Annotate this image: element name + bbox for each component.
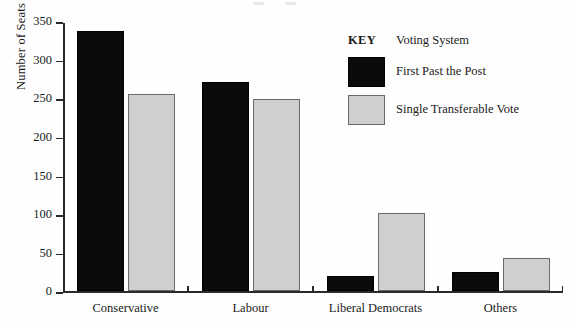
y-tick-label: 350 [33,14,52,28]
y-tick: 300 [56,61,63,62]
y-tick-label: 250 [33,91,52,105]
x-tick [437,286,438,293]
y-tick-label: 100 [33,207,52,221]
bar-fptp [202,82,249,292]
y-tick-label: 50 [40,246,53,260]
legend-title: Voting System [396,33,469,48]
x-tick [312,286,313,293]
y-axis-line [63,23,65,293]
x-tick [187,286,188,293]
y-tick: 350 [56,22,63,23]
x-tick [562,286,563,293]
y-tick: 250 [56,99,63,100]
category-label: Labour [232,301,268,316]
category-label: Conservative [93,301,159,316]
legend: KEY Voting System First Past the Post Si… [348,33,563,127]
chart-page: Number of Seats 050100150200250300350 Co… [0,0,576,327]
scan-artifact [0,0,576,10]
y-tick-label: 0 [46,284,52,298]
bar-fptp [327,276,374,291]
y-tick-label: 200 [33,130,52,144]
legend-item-label: First Past the Post [396,64,486,79]
y-tick: 200 [56,138,63,139]
y-tick-label: 300 [33,53,52,67]
bar-fptp [452,272,499,291]
bar-stv [378,213,425,292]
legend-header: KEY Voting System [348,33,563,51]
y-tick: 50 [56,254,63,255]
y-tick: 0 [56,292,63,293]
y-tick: 100 [56,215,63,216]
bar-stv [128,94,175,291]
black-swatch [348,57,385,87]
legend-key-label: KEY [348,33,376,48]
category-label: Liberal Democrats [329,301,422,316]
category-label: Others [484,301,517,316]
bar-fptp [77,31,124,292]
bar-stv [253,99,300,292]
legend-item-fptp: First Past the Post [348,51,563,89]
legend-item-stv: Single Transferable Vote [348,89,563,127]
y-tick: 150 [56,177,63,178]
y-tick-label: 150 [33,169,52,183]
gray-swatch [348,95,385,125]
y-axis-title: Number of Seats [14,3,29,90]
bar-stv [503,258,550,291]
legend-item-label: Single Transferable Vote [396,102,519,117]
